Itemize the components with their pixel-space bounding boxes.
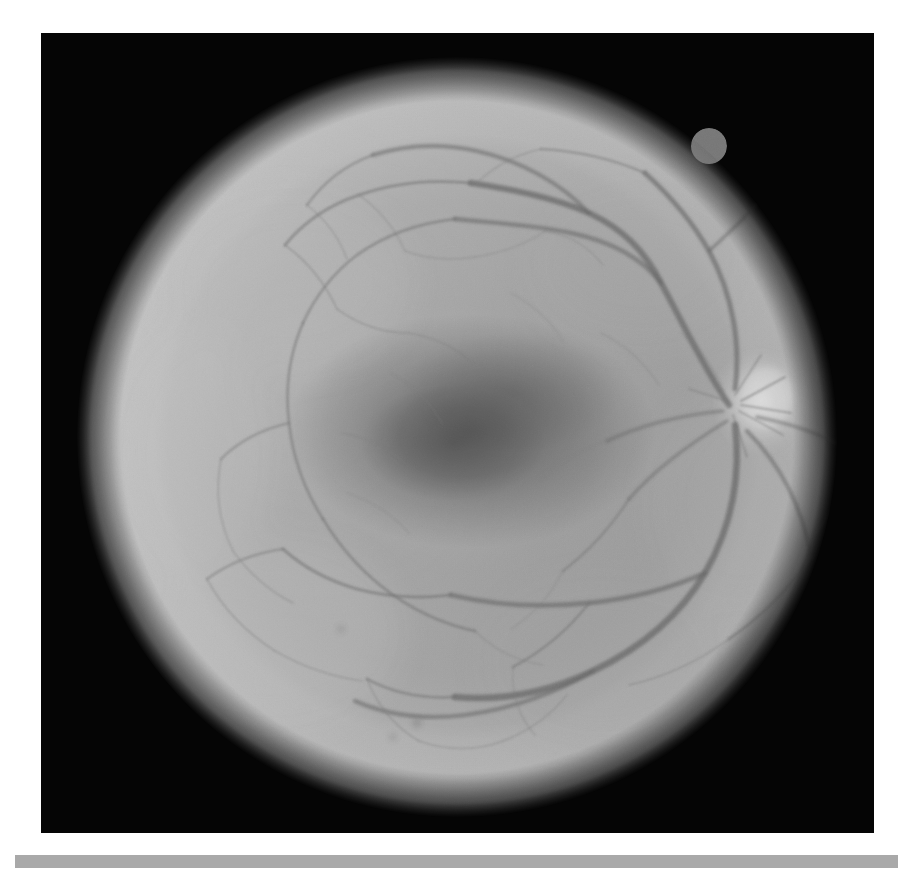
- fundus-photo-panel: [41, 33, 874, 833]
- page-canvas: [0, 0, 920, 873]
- bottom-horizontal-rule: [15, 855, 898, 868]
- fundus-image: [41, 33, 874, 833]
